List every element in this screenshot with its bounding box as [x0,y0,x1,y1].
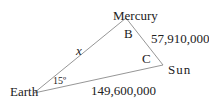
angle-label-earth: 15º [53,75,66,86]
angle-label-b: B [124,26,133,41]
side-label-mercury-sun: 57,910,000 [151,31,209,46]
vertex-label-mercury: Mercury [113,8,158,23]
angle-label-c: C [142,51,151,66]
triangle-diagram: Mercury Sun Earth B C 15º x 57,910,000 1… [0,0,209,103]
side-label-earth-mercury: x [75,43,82,58]
vertex-label-earth: Earth [10,84,39,99]
side-label-earth-sun: 149,600,000 [91,83,156,98]
vertex-label-sun: Sun [168,62,191,77]
